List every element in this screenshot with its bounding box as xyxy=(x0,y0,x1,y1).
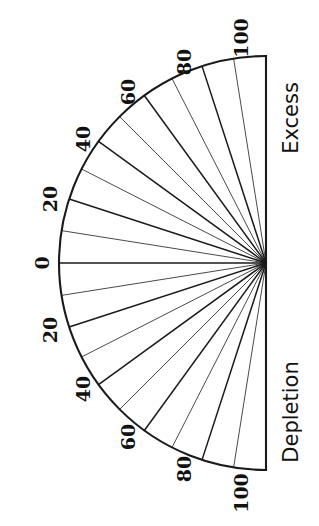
semicircular-gauge-figure: 02040608010020406080100 Excess Depletion xyxy=(0,0,319,526)
axis-label-excess: Excess xyxy=(279,82,303,154)
tick-label-excess-40: 40 xyxy=(72,126,94,152)
tick-label-excess-60: 60 xyxy=(117,79,139,105)
tick-label-excess-20: 20 xyxy=(39,186,61,212)
tick-label-depletion-80: 80 xyxy=(173,456,195,482)
tick-label-depletion-20: 20 xyxy=(39,317,61,343)
axis-label-depletion: Depletion xyxy=(279,361,303,462)
tick-label-excess-100: 100 xyxy=(230,18,252,58)
figure-canvas: 02040608010020406080100 Excess Depletion xyxy=(0,0,319,526)
tick-label-depletion-60: 60 xyxy=(117,424,139,450)
tick-label-depletion-100: 100 xyxy=(230,473,252,513)
tick-label-excess-0: 0 xyxy=(31,256,53,269)
tick-label-excess-80: 80 xyxy=(173,49,195,75)
tick-label-depletion-40: 40 xyxy=(72,376,94,402)
